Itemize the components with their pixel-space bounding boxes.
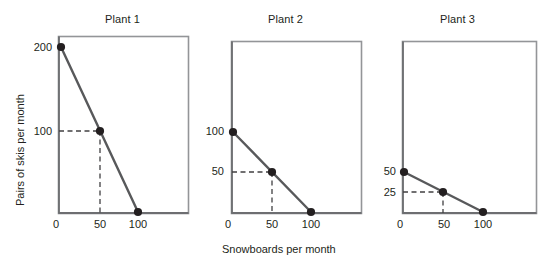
plot-vector-layer <box>0 0 549 269</box>
panel-3-point-g <box>400 168 408 176</box>
panel-1-plot <box>57 37 189 217</box>
panel-1-point-a <box>57 43 65 51</box>
panel-3-plot <box>400 42 537 217</box>
panel-3-point-i <box>479 208 487 216</box>
production-possibilities-figure: Plant 1 Plant 2 Plant 3 Pairs of skis pe… <box>0 0 549 269</box>
panel-1-plot-box <box>59 37 189 214</box>
panel-2-plot-box <box>232 42 362 214</box>
panel-3-point-h <box>439 188 447 196</box>
panel-2-point-e <box>268 168 276 176</box>
panel-2-plot <box>229 42 362 217</box>
panel-3-plot-box <box>403 42 537 214</box>
panel-2-point-f <box>307 208 315 216</box>
panel-2-point-d <box>229 128 237 136</box>
panel-1-point-b <box>96 127 104 135</box>
panel-1-point-c <box>134 208 142 216</box>
